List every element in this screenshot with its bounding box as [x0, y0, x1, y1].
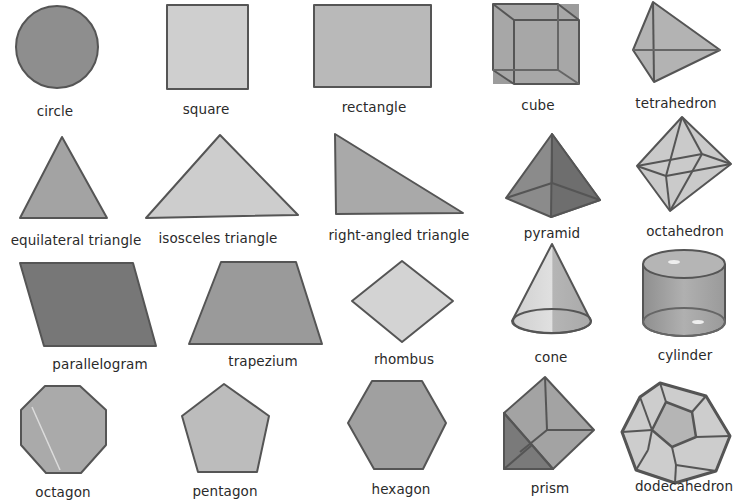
label-cone: cone: [535, 349, 568, 365]
pyramid-shape: [506, 134, 600, 217]
rectangle-shape: [314, 5, 431, 87]
octagon-shape: [21, 386, 106, 473]
tetrahedron-shape: [633, 2, 720, 82]
right-angled-triangle-shape: [335, 134, 463, 214]
label-rhombus: rhombus: [374, 351, 434, 367]
label-pentagon: pentagon: [192, 483, 257, 499]
label-octagon: octagon: [35, 484, 90, 500]
label-isosceles-triangle: isosceles triangle: [158, 230, 277, 246]
label-right-angled-triangle: right-angled triangle: [328, 227, 469, 243]
dodecahedron-shape: [622, 383, 730, 483]
label-equilateral-triangle: equilateral triangle: [11, 232, 142, 248]
label-parallelogram: parallelogram: [52, 356, 147, 372]
square-shape: [167, 5, 248, 89]
equilateral-triangle-shape: [20, 137, 107, 218]
label-octahedron: octahedron: [646, 223, 724, 239]
label-circle: circle: [37, 103, 74, 119]
label-cylinder: cylinder: [658, 347, 713, 363]
label-cube: cube: [521, 97, 554, 113]
circle-shape: [16, 6, 98, 88]
label-tetrahedron: tetrahedron: [635, 95, 716, 111]
label-trapezium: trapezium: [228, 353, 297, 369]
trapezium-shape: [189, 262, 322, 344]
label-prism: prism: [531, 480, 570, 496]
cube-shape: [493, 4, 579, 84]
label-square: square: [183, 101, 230, 117]
label-hexagon: hexagon: [372, 481, 431, 497]
label-pyramid: pyramid: [524, 225, 581, 241]
hexagon-shape: [348, 381, 446, 469]
label-rectangle: rectangle: [342, 99, 407, 115]
rhombus-shape: [352, 261, 453, 342]
parallelogram-shape: [20, 263, 156, 346]
pentagon-shape: [182, 384, 269, 472]
cylinder-shape: [643, 250, 725, 336]
octahedron-shape: [637, 117, 731, 211]
prism-shape: [504, 377, 594, 469]
label-dodecahedron: dodecahedron: [635, 478, 733, 494]
cone-shape: [512, 244, 591, 333]
isosceles-triangle-shape: [146, 135, 298, 218]
